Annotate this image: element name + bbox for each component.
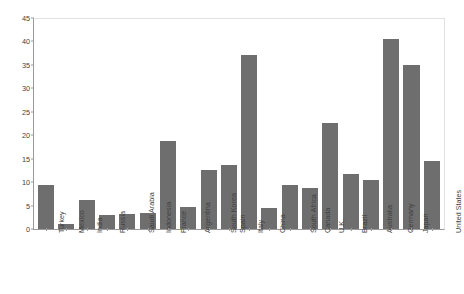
bar-slot (198, 18, 218, 229)
x-axis-tick: Indonesia (137, 231, 157, 294)
x-axis-tick-mark (269, 228, 270, 231)
x-axis-tick-mark (249, 228, 250, 231)
y-axis-tick-label: 45 (22, 14, 30, 23)
bar-slot (178, 18, 198, 229)
x-axis-tick: South Korea (198, 231, 218, 294)
x-axis-tick: Italy (239, 231, 259, 294)
x-axis-tick: U.K. (320, 231, 340, 294)
x-axis-tick-mark (66, 228, 67, 231)
x-axis-tick: Turkey (36, 231, 56, 294)
y-axis-tick-label: 25 (22, 107, 30, 116)
bar-slot (117, 18, 137, 229)
bar-slot (401, 18, 421, 229)
x-axis-tick: India (77, 231, 97, 294)
x-axis-tick-mark (148, 228, 149, 231)
bar-slot (340, 18, 360, 229)
x-axis-tick-label: Mexico (78, 210, 87, 233)
y-axis-tick-label: 20 (22, 131, 30, 140)
bar-series-group (34, 18, 444, 229)
bar[interactable] (38, 185, 54, 229)
bar-slot (280, 18, 300, 229)
x-axis-tick: Brazil (340, 231, 360, 294)
x-axis-tick: South Africa (280, 231, 300, 294)
x-axis-tick-mark (310, 228, 311, 231)
x-axis-tick-label: South Korea (229, 193, 238, 233)
y-axis: 051015202530354045 (0, 18, 34, 230)
y-axis-tick-label: 5 (26, 201, 30, 210)
x-axis-tick: Germany (381, 231, 401, 294)
x-axis-tick-mark (168, 228, 169, 231)
x-axis-tick: Saudi Arabia (117, 231, 137, 294)
x-axis-tick: Canada (300, 231, 320, 294)
bar[interactable] (383, 39, 399, 229)
x-axis-tick-label: Saudi Arabia (148, 192, 157, 233)
bar-slot (361, 18, 381, 229)
bar-slot (97, 18, 117, 229)
x-axis-tick-mark (411, 228, 412, 231)
x-axis-tick-mark (432, 228, 433, 231)
x-axis-tick: United States (422, 231, 442, 294)
x-axis-tick-mark (330, 228, 331, 231)
x-axis-tick: Argentina (178, 231, 198, 294)
bar-slot (77, 18, 97, 229)
x-axis-tick-label: France (179, 211, 188, 233)
x-axis-tick-mark (229, 228, 230, 231)
bar-slot (320, 18, 340, 229)
y-axis-tick-label: 30 (22, 84, 30, 93)
x-axis-tick-label: Turkey (57, 211, 66, 233)
y-axis-tick-label: 15 (22, 154, 30, 163)
bar-slot (422, 18, 442, 229)
x-axis-tick: Japan (401, 231, 421, 294)
x-axis-tick-mark (188, 228, 189, 231)
y-axis-tick-label: 35 (22, 60, 30, 69)
bar-slot (259, 18, 279, 229)
bar-chart: Additional spending and tax cuts Loans, … (0, 0, 464, 294)
x-axis-tick-mark (209, 228, 210, 231)
x-axis-tick: France (158, 231, 178, 294)
x-axis-tick-label: Australia (385, 205, 394, 233)
x-axis-tick: China (259, 231, 279, 294)
x-axis-tick-mark (391, 228, 392, 231)
bar-slot (381, 18, 401, 229)
bar-slot (36, 18, 56, 229)
x-axis-tick-mark (107, 228, 108, 231)
x-axis-tick-label: Russia (118, 211, 127, 233)
x-axis-tick-mark (46, 228, 47, 231)
x-axis-tick-mark (127, 228, 128, 231)
x-axis-tick-mark (290, 228, 291, 231)
x-axis-tick: Spain (219, 231, 239, 294)
x-axis-tick-mark (351, 228, 352, 231)
bar-slot (56, 18, 76, 229)
bar[interactable] (241, 55, 257, 229)
y-axis-tick-label: 0 (26, 225, 30, 234)
x-axis-tick: Russia (97, 231, 117, 294)
x-axis-tick: Mexico (56, 231, 76, 294)
x-axis-tick-mark (87, 228, 88, 231)
x-axis-tick-mark (371, 228, 372, 231)
y-axis-tick-label: 40 (22, 37, 30, 46)
x-axis-tick-label: United States (453, 190, 462, 233)
x-axis-tick-label: Germany (406, 203, 415, 233)
bar-slot (239, 18, 259, 229)
x-axis: TurkeyMexicoIndiaRussiaSaudi ArabiaIndon… (34, 231, 444, 294)
y-axis-tick-label: 10 (22, 178, 30, 187)
x-axis-tick: Australia (361, 231, 381, 294)
bar-slot (158, 18, 178, 229)
